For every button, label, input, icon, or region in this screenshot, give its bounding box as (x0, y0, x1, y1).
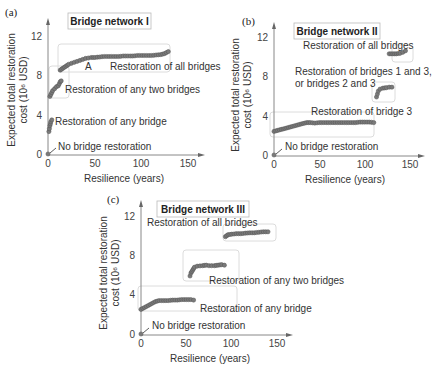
x-axis-label: Resilience (years) (170, 353, 250, 364)
annotation-one: Restoration of bridge 3 (311, 106, 413, 117)
y-axis-label-line2: cost (10⁶ USD) (110, 240, 121, 307)
annotation-pair-line1: Restoration of bridges 1 and 3, (295, 66, 432, 77)
y-axis-label-line1: Expected total restoration (6, 33, 17, 146)
y-tick: 4 (129, 289, 135, 300)
x-tick: 150 (269, 338, 286, 349)
annotation-pointer (276, 149, 282, 154)
y-axis-arrow-icon (272, 22, 276, 29)
annotation-two: Restoration of any two bridges (209, 275, 344, 286)
y-tick: 0 (129, 329, 135, 340)
panel-title: Bridge network I (70, 16, 149, 27)
y-axis-arrow-icon (46, 18, 50, 25)
x-axis-arrow-icon (286, 333, 293, 337)
data-point (272, 153, 276, 157)
panel-b: (b) 0 4 8 12 0 50 100 150 Resilience (ye… (230, 15, 432, 185)
panel-letter: (b) (242, 15, 255, 28)
annotation-none: No bridge restoration (58, 141, 151, 152)
y-axis-arrow-icon (139, 200, 143, 207)
y-tick: 4 (262, 111, 268, 122)
data-point (166, 50, 170, 54)
y-axis-label-line2: cost (10⁶ USD) (242, 62, 253, 129)
y-axis-label-line1: Expected total restoration (230, 38, 241, 151)
y-axis-label-line1: Expected total restoration (98, 216, 109, 329)
panel-letter: (c) (107, 193, 120, 206)
x-tick: 100 (223, 338, 240, 349)
x-tick: 0 (138, 338, 144, 349)
panel-letter: (a) (5, 6, 18, 19)
x-tick: 0 (45, 158, 51, 169)
data-point (139, 332, 143, 336)
data-point (50, 118, 54, 122)
x-axis-arrow-icon (418, 154, 425, 158)
x-tick: 150 (180, 158, 197, 169)
y-tick: 8 (129, 250, 135, 261)
figure: (a) 0 4 8 12 0 50 100 150 Resilience (ye… (0, 0, 437, 369)
annotation-none: No bridge restoration (285, 141, 378, 152)
y-tick: 12 (31, 31, 43, 42)
data-point (266, 230, 270, 234)
y-tick: 12 (257, 32, 269, 43)
annotation-pair-line2: or bridges 2 and 3 (295, 78, 376, 89)
annotation-two: Restoration of any two bridges (65, 84, 200, 95)
annotation-all: Restoration of all bridges (147, 217, 258, 228)
data-point (390, 85, 394, 89)
x-tick: 100 (357, 159, 374, 170)
y-tick: 8 (36, 70, 42, 81)
x-tick: 150 (402, 159, 419, 170)
y-tick: 4 (36, 110, 42, 121)
data-point (192, 298, 196, 302)
y-tick: 0 (36, 149, 42, 160)
annotation-all: Restoration of all bridges (303, 40, 414, 51)
annotation-point-a: A (85, 61, 92, 72)
y-axis-label-line2: cost (10⁶ USD) (18, 57, 29, 124)
data-point (372, 121, 376, 125)
data-point (46, 152, 50, 156)
panel-title: Bridge network II (296, 26, 377, 37)
annotation-one: Restoration of any bridge (55, 116, 167, 127)
panel-a: (a) 0 4 8 12 0 50 100 150 Resilience (ye… (5, 6, 221, 184)
annotation-one: Restoration of any bridge (200, 303, 312, 314)
x-tick: 50 (314, 159, 326, 170)
x-tick: 50 (180, 338, 192, 349)
annotation-all: Restoration of all bridges (110, 61, 221, 72)
y-tick: 12 (124, 211, 136, 222)
annotation-none: No bridge restoration (152, 320, 245, 331)
x-axis-arrow-icon (198, 153, 205, 157)
annotation-pointer (50, 148, 56, 153)
y-tick: 8 (262, 71, 268, 82)
panel-title: Bridge network III (161, 204, 245, 215)
panel-c: (c) 0 4 8 12 0 50 100 150 Resilience (ye… (98, 193, 344, 364)
x-axis-label: Resilience (years) (305, 174, 385, 185)
x-axis-label: Resilience (years) (84, 173, 164, 184)
x-tick: 0 (271, 159, 277, 170)
annotation-pointer (143, 328, 149, 333)
x-tick: 100 (133, 158, 150, 169)
data-point (222, 263, 226, 267)
y-tick: 0 (262, 150, 268, 161)
x-tick: 50 (89, 158, 101, 169)
data-point (59, 79, 63, 83)
